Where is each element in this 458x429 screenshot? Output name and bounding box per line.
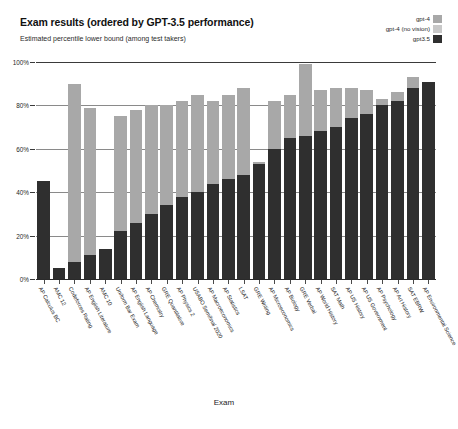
x-axis-tick-mark	[182, 280, 183, 284]
x-axis-tick-label: AP English Language	[130, 286, 160, 335]
x-axis-tick-mark	[398, 280, 399, 284]
legend-item[interactable]: gpt-4 (no vision)	[302, 24, 442, 33]
bar-gpt-3-5[interactable]	[207, 184, 220, 279]
legend-item-label: gpt-4	[416, 15, 430, 22]
bar-gpt-3-5[interactable]	[53, 268, 66, 279]
x-axis-tick-mark	[167, 280, 168, 284]
x-axis-tick-mark	[151, 280, 152, 284]
x-axis-tick-mark	[413, 280, 414, 284]
bar-group[interactable]	[207, 62, 220, 279]
bar-gpt-3-5[interactable]	[84, 255, 97, 279]
y-axis-tick-label: 60%	[16, 145, 29, 152]
x-axis-tick-label: SAT Math	[330, 286, 347, 310]
bar-group[interactable]	[37, 62, 50, 279]
bar-gpt-3-5[interactable]	[299, 136, 312, 279]
bar-group[interactable]	[84, 62, 97, 279]
bar-gpt-3-5[interactable]	[330, 127, 343, 279]
bar-gpt-3-5[interactable]	[422, 82, 435, 279]
bar-group[interactable]	[391, 62, 404, 279]
y-axis-tick-label: 40%	[16, 189, 29, 196]
chart-legend: gpt-4gpt-4 (no vision)gpt3.5	[302, 14, 442, 44]
bar-group[interactable]	[360, 62, 373, 279]
bar-group[interactable]	[68, 62, 81, 279]
legend-item-label: gpt-4 (no vision)	[386, 25, 430, 32]
bar-gpt-3-5[interactable]	[99, 249, 112, 279]
chart-subtitle: Estimated percentile lower bound (among …	[20, 35, 186, 42]
bar-group[interactable]	[191, 62, 204, 279]
bar-gpt-3-5[interactable]	[360, 114, 373, 279]
legend-item[interactable]: gpt-4	[302, 14, 442, 23]
x-axis-line	[36, 279, 436, 280]
x-axis-tick-label: AMC 10	[99, 286, 114, 306]
x-axis-tick-mark	[90, 280, 91, 284]
bar-gpt-3-5[interactable]	[237, 175, 250, 279]
y-axis-tick-label: 20%	[16, 232, 29, 239]
x-axis-tick-mark	[213, 280, 214, 284]
bar-group[interactable]	[222, 62, 235, 279]
bar-gpt-3-5[interactable]	[391, 101, 404, 279]
plot-area: 0%20%40%60%80%100%	[36, 62, 436, 279]
bar-gpt-3-5[interactable]	[130, 223, 143, 279]
bar-group[interactable]	[176, 62, 189, 279]
bar-gpt-3-5[interactable]	[284, 138, 297, 279]
chart-title: Exam results (ordered by GPT-3.5 perform…	[20, 16, 254, 28]
x-axis-title: Exam	[0, 398, 448, 407]
bar-gpt-3-5[interactable]	[68, 262, 81, 279]
bar-gpt-3-5[interactable]	[345, 118, 358, 279]
x-axis-tick-mark	[305, 280, 306, 284]
bar-series-container	[36, 62, 436, 279]
legend-swatch	[433, 35, 442, 43]
bar-group[interactable]	[114, 62, 127, 279]
y-axis-tick-label: 80%	[16, 102, 29, 109]
bar-group[interactable]	[99, 62, 112, 279]
bar-group[interactable]	[237, 62, 250, 279]
x-axis-tick-mark	[367, 280, 368, 284]
bar-gpt-3-5[interactable]	[314, 131, 327, 279]
x-axis-tick-label: AMC 12	[53, 286, 68, 306]
legend-item[interactable]: gpt3.5	[302, 34, 442, 43]
bar-group[interactable]	[160, 62, 173, 279]
bar-gpt-4[interactable]	[84, 108, 97, 279]
x-axis-tick-mark	[382, 280, 383, 284]
bar-group[interactable]	[314, 62, 327, 279]
bar-gpt-3-5[interactable]	[37, 181, 50, 279]
y-axis-tick-mark	[30, 192, 35, 193]
bar-group[interactable]	[253, 62, 266, 279]
bar-group[interactable]	[53, 62, 66, 279]
x-axis-tick-label: AP Environmental Science	[422, 286, 458, 346]
bar-gpt-3-5[interactable]	[376, 105, 389, 279]
x-axis-tick-mark	[428, 280, 429, 284]
x-axis-tick-mark	[351, 280, 352, 284]
bar-group[interactable]	[284, 62, 297, 279]
bar-group[interactable]	[130, 62, 143, 279]
x-axis-tick-mark	[44, 280, 45, 284]
bar-group[interactable]	[376, 62, 389, 279]
y-axis-tick-mark	[30, 236, 35, 237]
bar-group[interactable]	[299, 62, 312, 279]
bar-gpt-3-5[interactable]	[191, 192, 204, 279]
bar-group[interactable]	[345, 62, 358, 279]
bar-gpt-3-5[interactable]	[407, 88, 420, 279]
legend-swatch	[433, 15, 442, 23]
bar-group[interactable]	[145, 62, 158, 279]
bar-group[interactable]	[330, 62, 343, 279]
x-axis-tick-mark	[136, 280, 137, 284]
y-axis-tick-mark	[30, 62, 35, 63]
x-axis-tick-mark	[74, 280, 75, 284]
x-axis-tick-mark	[59, 280, 60, 284]
x-axis-tick-mark	[121, 280, 122, 284]
bar-gpt-3-5[interactable]	[160, 205, 173, 279]
bar-group[interactable]	[407, 62, 420, 279]
bar-gpt-3-5[interactable]	[268, 149, 281, 279]
x-axis-tick-label: LSAT	[237, 286, 249, 301]
bar-gpt-3-5[interactable]	[176, 197, 189, 279]
bar-gpt-3-5[interactable]	[253, 164, 266, 279]
bar-group[interactable]	[422, 62, 435, 279]
bar-gpt-3-5[interactable]	[145, 214, 158, 279]
x-axis-tick-mark	[105, 280, 106, 284]
x-axis-tick-mark	[321, 280, 322, 284]
bar-gpt-4[interactable]	[68, 84, 81, 279]
bar-gpt-3-5[interactable]	[114, 231, 127, 279]
bar-group[interactable]	[268, 62, 281, 279]
bar-gpt-3-5[interactable]	[222, 179, 235, 279]
